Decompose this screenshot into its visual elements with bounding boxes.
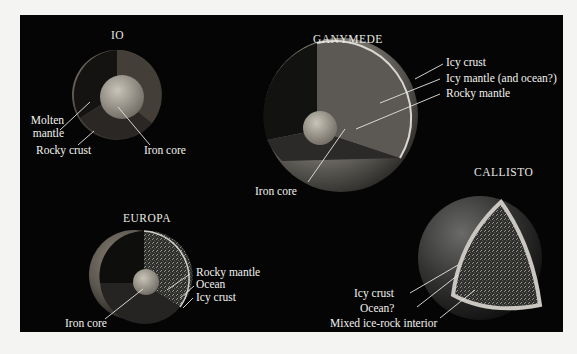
- callisto-label-icy-crust: Icy crust: [354, 287, 394, 300]
- io-label-iron-core: Iron core: [144, 144, 186, 157]
- io-label-molten: Molten: [24, 114, 64, 127]
- callisto-title: CALLISTO: [474, 166, 533, 178]
- europa-label-icy-crust: Icy crust: [196, 291, 236, 304]
- ganymede-title: GANYMEDE: [313, 33, 383, 45]
- europa-label-ocean: Ocean: [196, 278, 225, 291]
- europa-label-iron-core: Iron core: [65, 317, 107, 330]
- europa-title: EUROPA: [123, 212, 171, 224]
- io-label-mantle: mantle: [24, 127, 64, 140]
- callisto-label-ocean: Ocean?: [360, 302, 394, 315]
- io-title: IO: [111, 29, 124, 41]
- moons-diagram-panel: IO GANYMEDE EUROPA CALLISTO Molten mantl…: [20, 15, 563, 332]
- ganymede-label-icy-mantle: Icy mantle (and ocean?): [446, 72, 557, 85]
- callisto-cutaway: [418, 196, 542, 320]
- io-label-rocky-crust: Rocky crust: [36, 144, 91, 157]
- ganymede-label-icy-crust: Icy crust: [446, 56, 486, 69]
- callisto-label-interior: Mixed ice-rock interior: [330, 317, 437, 330]
- ganymede-label-iron-core: Iron core: [255, 185, 297, 198]
- io-cutaway: [72, 50, 162, 140]
- ganymede-cutaway: [263, 38, 418, 192]
- io-label-molten-mantle: Molten mantle: [24, 114, 64, 140]
- europa-cutaway: [89, 230, 193, 324]
- ganymede-label-rocky-mantle: Rocky mantle: [446, 87, 510, 100]
